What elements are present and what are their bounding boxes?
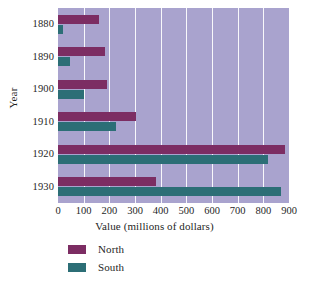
legend-swatch-south bbox=[68, 263, 86, 272]
y-tick-1910: 1910 bbox=[20, 116, 54, 127]
gridline bbox=[84, 8, 85, 203]
bar-south-1930 bbox=[58, 187, 281, 196]
x-tick-300: 300 bbox=[127, 205, 143, 217]
y-axis-tick-labels: 188018901900191019201930 bbox=[16, 8, 54, 203]
bar-north-1920 bbox=[58, 145, 285, 154]
gridline bbox=[263, 8, 264, 203]
bar-south-1910 bbox=[58, 122, 116, 131]
bar-north-1880 bbox=[58, 15, 99, 24]
gridline bbox=[238, 8, 239, 203]
y-tick-1900: 1900 bbox=[20, 83, 54, 94]
y-tick-1880: 1880 bbox=[20, 18, 54, 29]
legend-item-north: North bbox=[68, 240, 228, 258]
gridline bbox=[109, 8, 110, 203]
x-tick-700: 700 bbox=[230, 205, 246, 217]
x-tick-400: 400 bbox=[153, 205, 169, 217]
x-tick-500: 500 bbox=[178, 205, 194, 217]
gridline bbox=[186, 8, 187, 203]
legend-label-north: North bbox=[98, 243, 124, 255]
gridline bbox=[161, 8, 162, 203]
y-tick-1930: 1930 bbox=[20, 181, 54, 192]
y-tick-1890: 1890 bbox=[20, 51, 54, 62]
x-tick-200: 200 bbox=[101, 205, 117, 217]
gridline bbox=[212, 8, 213, 203]
x-axis-title: Value (millions of dollars) bbox=[0, 220, 309, 232]
legend-label-south: South bbox=[98, 261, 124, 273]
legend-item-south: South bbox=[68, 258, 228, 276]
x-tick-900: 900 bbox=[281, 205, 297, 217]
plot-area bbox=[58, 8, 289, 203]
x-axis-tick-labels: 0100200300400500600700800900 bbox=[58, 205, 289, 219]
bar-north-1910 bbox=[58, 112, 136, 121]
bar-south-1880 bbox=[58, 25, 63, 34]
x-tick-800: 800 bbox=[255, 205, 271, 217]
x-tick-0: 0 bbox=[55, 205, 60, 217]
bar-south-1920 bbox=[58, 155, 268, 164]
legend-swatch-north bbox=[68, 245, 86, 254]
x-tick-100: 100 bbox=[76, 205, 92, 217]
bar-north-1930 bbox=[58, 177, 156, 186]
y-tick-1920: 1920 bbox=[20, 148, 54, 159]
bar-chart: Year 188018901900191019201930 0100200300… bbox=[0, 0, 309, 281]
x-tick-600: 600 bbox=[204, 205, 220, 217]
bar-north-1900 bbox=[58, 80, 107, 89]
gridline bbox=[135, 8, 136, 203]
bar-south-1890 bbox=[58, 57, 70, 66]
bar-south-1900 bbox=[58, 90, 84, 99]
legend: NorthSouth bbox=[68, 240, 228, 276]
bar-north-1890 bbox=[58, 47, 105, 56]
